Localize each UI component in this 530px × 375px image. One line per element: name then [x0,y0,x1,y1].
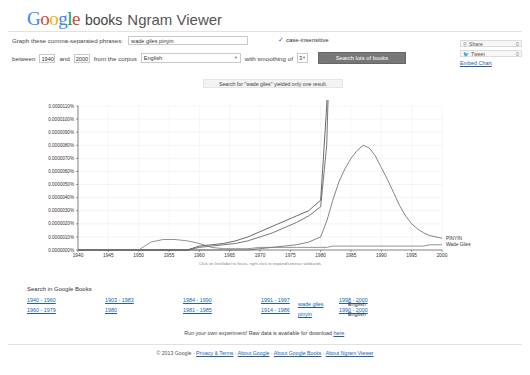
logo-letter-g2: g [58,8,67,29]
corpus-select[interactable]: English ▼ [141,53,241,63]
logo-letter-g1: G [27,8,40,29]
share-button[interactable]: ⚲ Share 0 [460,40,522,47]
options-row: between 1940 and 2000 from the corpus En… [12,51,472,65]
date-range-link[interactable]: 1984 - 1990 [183,297,261,303]
footer-link[interactable]: Privacy & Terms [196,350,233,356]
year-end-input[interactable]: 2000 [74,54,90,63]
check-icon: ✓ [278,36,284,43]
svg-text:2000: 2000 [437,253,448,258]
svg-text:0.0000030%: 0.0000030% [48,208,74,213]
series-label-pinyin[interactable]: PINYIN [446,236,463,241]
download-link[interactable]: here [333,330,344,336]
date-range-link[interactable]: 1980 [105,307,183,313]
svg-text:1990: 1990 [376,253,387,258]
page-title: Ngram Viewer [127,11,222,28]
svg-text:0.0000040%: 0.0000040% [48,195,74,200]
date-range-link[interactable]: 1960 - 1979 [27,307,105,313]
between-label: between [12,55,35,62]
svg-text:1975: 1975 [285,253,296,258]
series-labels[interactable]: PinyinpinyinPINYINWade Giles [446,100,471,247]
corpus-column: EnglishEnglish [348,301,366,321]
svg-text:0.0000020%: 0.0000020% [48,221,74,226]
chart-hint: Click on line/label to focus, right clic… [199,261,321,266]
svg-text:0.0000050%: 0.0000050% [48,182,74,187]
footer-link[interactable]: About Ngram Viewer [326,350,374,356]
svg-text:1955: 1955 [164,253,175,258]
phrase-row: Graph these comma-separated phrases: wad… [12,34,472,47]
svg-text:1995: 1995 [406,253,417,258]
svg-text:1960: 1960 [194,253,205,258]
svg-text:0.0000010%: 0.0000010% [48,235,74,240]
share-widgets: ⚲ Share 0 🐦 Tweet 0 Embed Chart [460,40,522,66]
books-label[interactable]: books [85,12,122,28]
date-range-link[interactable]: 1940 - 1960 [27,297,105,303]
corpus-label: from the corpus [94,55,137,62]
svg-text:1940: 1940 [73,253,84,258]
corpus-value: English [144,55,162,61]
svg-text:1945: 1945 [103,253,114,258]
date-range-link[interactable]: 1981 - 1985 [183,307,261,313]
search-button[interactable]: Search lots of books [318,52,406,64]
tweet-count: 0 [516,51,519,57]
embed-chart-link[interactable]: Embed Chart [460,60,522,66]
date-range-table: 1940 - 19601903 - 19831984 - 19901991 - … [27,297,427,313]
phrase-input[interactable]: wade giles pinyin [128,36,248,45]
svg-text:0.0000060%: 0.0000060% [48,169,74,174]
copyright-text: © 2013 Google [156,350,192,356]
search-terms-column: wade gilespinyin [298,301,323,321]
svg-text:0.0000000%: 0.0000000% [48,248,74,253]
tweet-button[interactable]: 🐦 Tweet 0 [460,50,522,57]
google-logo[interactable]: Google [27,8,80,30]
experiment-note: Run your own experiment! Raw data is ava… [0,330,530,336]
smoothing-select[interactable]: 3 ▼ [297,53,308,63]
experiment-suffix: . [344,330,346,336]
footer-divider [8,344,522,345]
google-books-title: Search in Google Books [27,286,427,292]
svg-text:1950: 1950 [133,253,144,258]
experiment-prefix: Run your own experiment! Raw data is ava… [184,330,333,336]
logo-letter-o1: o [40,8,49,29]
x-axis-ticks: 1940194519501955196019651970197519801985… [73,250,448,258]
tweet-label: Tweet [471,51,485,57]
search-term-link[interactable]: pinyin [298,311,323,317]
ngram-chart[interactable]: 0.0000000%0.0000010%0.0000020%0.0000030%… [10,100,480,272]
case-insensitive-label: case-insensitive [286,37,329,43]
and-label: and [59,55,69,62]
share-label: Share [469,41,483,47]
chevron-down-icon: ▼ [302,56,306,60]
ngram-viewer-page: Google books Ngram Viewer Graph these co… [0,0,530,375]
svg-text:1985: 1985 [346,253,357,258]
logo-letter-o2: o [49,8,58,29]
svg-text:0.0000110%: 0.0000110% [49,104,74,109]
query-form: Graph these comma-separated phrases: wad… [12,34,472,65]
svg-text:0.0000100%: 0.0000100% [48,117,74,122]
google-books-results: Search in Google Books 1940 - 19601903 -… [27,286,427,313]
header-divider [8,31,522,32]
svg-text:0.0000080%: 0.0000080% [48,143,74,148]
chevron-down-icon: ▼ [234,56,238,60]
corpus-value: English [348,311,366,317]
footer-link[interactable]: About Google [238,350,270,356]
footer-link[interactable]: About Google Books [274,350,322,356]
smoothing-label: with smoothing of [245,55,293,62]
share-icon: ⚲ [463,41,467,47]
share-count: 0 [516,41,519,47]
date-range-link[interactable]: 1903 - 1983 [105,297,183,303]
result-notice: Search for "wade giles" yielded only one… [203,79,343,88]
svg-text:1980: 1980 [315,253,326,258]
grid-lines [78,106,442,250]
phrase-label: Graph these comma-separated phrases: [12,37,123,44]
search-term-link[interactable]: wade giles [298,301,323,307]
case-insensitive-checkbox[interactable]: ✓ case-insensitive [278,36,329,43]
twitter-bird-icon: 🐦 [463,51,469,57]
y-axis-ticks: 0.0000000%0.0000010%0.0000020%0.0000030%… [48,104,78,253]
year-start-input[interactable]: 1940 [39,54,55,63]
logo-letter-e: e [72,8,80,29]
svg-text:1970: 1970 [255,253,266,258]
svg-text:0.0000090%: 0.0000090% [48,130,74,135]
svg-text:0.0000070%: 0.0000070% [48,156,74,161]
footer: © 2013 Google - Privacy & Terms - About … [0,350,530,356]
masthead: Google books Ngram Viewer [27,8,222,30]
chart-svg: 0.0000000%0.0000010%0.0000020%0.0000030%… [10,100,480,272]
series-label-wade-giles[interactable]: Wade Giles [446,242,471,247]
